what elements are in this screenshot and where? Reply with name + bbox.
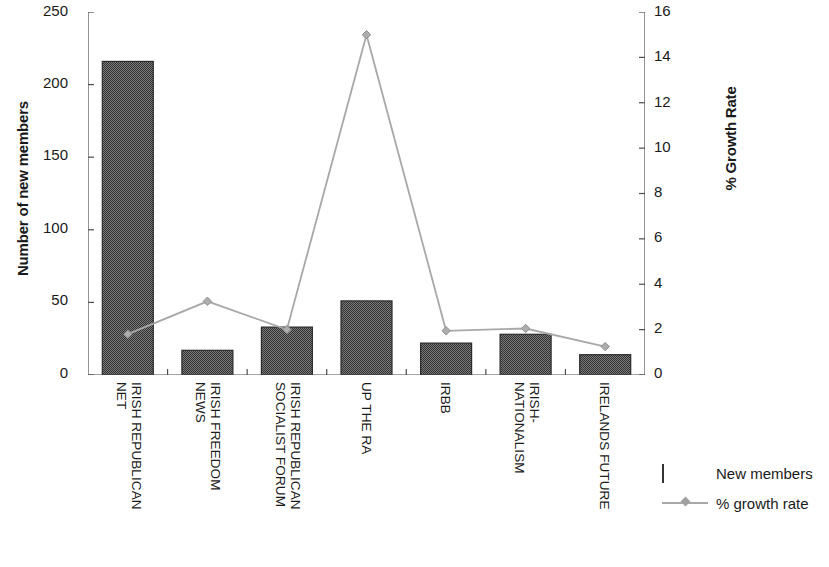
bar-6: [580, 355, 631, 375]
plot-svg: [88, 12, 645, 375]
y-left-tick-0: 0: [16, 366, 68, 380]
y-left-tick-50: 50: [16, 293, 68, 307]
plot-area: [88, 12, 645, 375]
legend-label-new-members: New members: [716, 465, 813, 482]
bar-0: [102, 61, 153, 375]
x-label-0: IRISH REPUBLICANNET: [110, 382, 144, 562]
y-right-tick-10: 10: [654, 140, 694, 154]
bar-1: [182, 350, 233, 375]
x-label-2: IRISH REPUBLICANSOCIALIST FORUM: [269, 382, 303, 562]
y-right-tick-4: 4: [654, 276, 694, 290]
bar-series: [102, 61, 630, 375]
y-left-tick-100: 100: [16, 221, 68, 235]
line-marker-6: [601, 342, 609, 350]
y-right-tick-6: 6: [654, 230, 694, 244]
line-marker-5: [521, 324, 529, 332]
x-label-1: IRISH FREEDOMNEWS: [189, 382, 223, 562]
legend-label-growth-rate: % growth rate: [716, 495, 809, 512]
legend-item-new-members: New members: [662, 458, 829, 488]
x-label-6: IRELANDS FUTURE: [596, 382, 612, 562]
line-marker-3: [362, 31, 370, 39]
y-axis-left-ticks: 0 50 100 150 200 250: [10, 0, 68, 567]
line-marker-1: [203, 297, 211, 305]
x-label-4: IRBB: [437, 382, 453, 562]
y-right-tick-16: 16: [654, 4, 694, 18]
chart-legend: New members % growth rate: [662, 458, 829, 518]
bar-4: [421, 343, 472, 375]
y-right-tick-12: 12: [654, 95, 694, 109]
x-label-3: UP THE RA: [358, 382, 374, 562]
y-right-tick-2: 2: [654, 321, 694, 335]
y-right-tick-14: 14: [654, 49, 694, 63]
y-right-tick-0: 0: [654, 366, 694, 380]
bar-5: [500, 334, 551, 375]
y-axis-right-title: % Growth Rate: [722, 0, 739, 289]
legend-line-swatch-icon: [662, 495, 708, 511]
x-axis-category-labels: IRISH REPUBLICANNETIRISH FREEDOMNEWSIRIS…: [88, 380, 645, 565]
bar-3: [341, 301, 392, 375]
legend-bar-swatch-icon: [662, 465, 708, 481]
y-left-tick-200: 200: [16, 76, 68, 90]
x-label-5: IRISH-NATIONALISM: [508, 382, 542, 562]
chart-figure: Number of new members % Growth Rate 0 50…: [0, 0, 829, 567]
y-left-tick-250: 250: [16, 4, 68, 18]
y-right-tick-8: 8: [654, 185, 694, 199]
legend-item-growth-rate: % growth rate: [662, 488, 829, 518]
line-marker-4: [442, 327, 450, 335]
y-left-tick-150: 150: [16, 148, 68, 162]
